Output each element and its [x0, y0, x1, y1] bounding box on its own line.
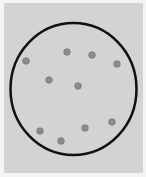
particle-3 [89, 52, 96, 59]
particle-5 [46, 77, 53, 84]
particle-7 [109, 119, 116, 126]
particle-10 [58, 138, 65, 145]
particles-group [23, 49, 121, 145]
particle-6 [75, 83, 82, 90]
circular-boundary [11, 23, 137, 155]
particle-1 [23, 58, 30, 65]
particle-4 [114, 61, 121, 68]
particle-diagram [0, 0, 146, 177]
particle-9 [37, 128, 44, 135]
particle-8 [82, 125, 89, 132]
particle-2 [64, 49, 71, 56]
